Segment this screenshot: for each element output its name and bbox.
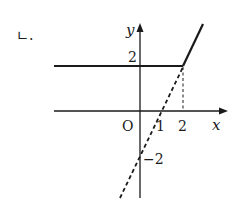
- y-tick-2: 2: [128, 49, 137, 65]
- y-axis-label: y: [125, 21, 135, 39]
- solid-rising-ray: [183, 24, 203, 66]
- y-axis-arrow-icon: [137, 23, 144, 32]
- x-axis-arrow-icon: [219, 108, 228, 115]
- function-graph: ㄴ. y x O 1 2 2 −2: [0, 0, 241, 210]
- x-tick-2: 2: [178, 118, 187, 134]
- y-tick-neg2: −2: [143, 151, 164, 167]
- origin-label: O: [122, 118, 133, 134]
- panel-label: ㄴ.: [16, 27, 33, 43]
- x-tick-1: 1: [156, 118, 165, 134]
- x-axis-label: x: [212, 116, 221, 134]
